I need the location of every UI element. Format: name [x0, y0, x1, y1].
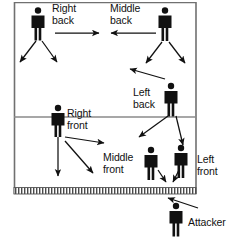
arrow-rb-down-right [42, 41, 57, 62]
court-svg [0, 0, 235, 241]
movement-arrows [20, 33, 198, 208]
player-figure-left-front [174, 145, 187, 178]
arrow-lb-down-right [176, 116, 183, 145]
label-right-front: Right front [67, 108, 91, 131]
player-figure-attacker [169, 203, 182, 237]
label-middle-front: Middle front [103, 152, 133, 175]
label-left-front: Left front [197, 154, 218, 177]
player-figure-right-front [52, 105, 65, 137]
label-attacker: Attacker [188, 217, 226, 229]
label-left-back: Left back [133, 87, 155, 110]
player-figure-left-back [164, 83, 177, 117]
player-figure-right-back [32, 7, 45, 40]
player-figure-middle-front [144, 147, 157, 180]
arrow-mb-down-right [169, 42, 185, 63]
volleyball-court-diagram: Right back Middle back Left back Right f… [0, 0, 235, 241]
player-figure-middle-back [158, 7, 171, 41]
arrow-rf-right [65, 137, 104, 143]
arrow-rb-down-left [20, 41, 36, 62]
label-middle-back: Middle back [110, 3, 140, 26]
arrow-attacker [168, 198, 198, 208]
arrow-mf-short [158, 170, 166, 182]
arrow-lb-up-left [130, 69, 165, 79]
arrow-lb-down-left [139, 116, 168, 137]
net [14, 188, 196, 195]
arrow-rf-down-right [65, 141, 93, 173]
arrow-mb-down-left [146, 42, 162, 63]
label-right-back: Right back [52, 3, 76, 26]
